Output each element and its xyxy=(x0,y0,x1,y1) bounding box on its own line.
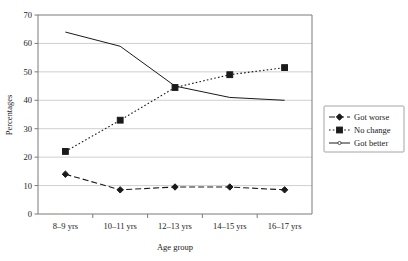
x-tick-label: 16–17 yrs xyxy=(268,221,302,231)
data-point-marker xyxy=(63,149,69,155)
chart-legend: Got worseNo changeGot better xyxy=(324,106,404,152)
legend-label: Got worse xyxy=(354,112,389,122)
y-tick-label: 20 xyxy=(24,152,33,162)
legend-label: No change xyxy=(354,125,391,135)
data-point-marker xyxy=(227,72,233,78)
y-tick-label: 0 xyxy=(28,209,32,219)
x-axis-title: Age group xyxy=(157,242,193,252)
y-tick-label: 30 xyxy=(24,124,33,134)
y-tick-label: 70 xyxy=(24,10,33,20)
x-tick-label: 8–9 yrs xyxy=(53,221,78,231)
chart-figure: 010203040506070 8–9 yrs10–11 yrs12–13 yr… xyxy=(0,0,408,261)
x-tick-label: 12–13 yrs xyxy=(158,221,192,231)
data-point-marker xyxy=(337,127,343,133)
y-axis-title: Percentages xyxy=(4,95,14,136)
y-axis-ticks-group: 010203040506070 xyxy=(24,10,39,219)
data-point-marker xyxy=(117,117,123,123)
x-tick-label: 10–11 yrs xyxy=(103,221,136,231)
y-tick-label: 10 xyxy=(24,181,33,191)
y-tick-label: 40 xyxy=(24,95,33,105)
y-tick-label: 60 xyxy=(24,38,33,48)
y-tick-label: 50 xyxy=(24,67,33,77)
legend-marker-swatch xyxy=(338,141,341,144)
line-chart-canvas: 010203040506070 8–9 yrs10–11 yrs12–13 yr… xyxy=(0,0,408,261)
data-point-marker xyxy=(282,65,288,71)
x-axis-ticks-group: 8–9 yrs10–11 yrs12–13 yrs14–15 yrs16–17 … xyxy=(53,214,302,231)
x-tick-label: 14–15 yrs xyxy=(213,221,247,231)
legend-label: Got better xyxy=(354,138,388,148)
